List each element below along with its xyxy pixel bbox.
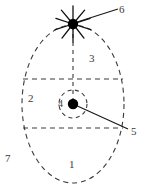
callout-label-3: 3 — [89, 53, 95, 64]
callout-label-1: 1 — [69, 159, 75, 170]
center-node-dot — [68, 99, 78, 109]
callout-label-2: 2 — [28, 93, 34, 104]
callout-label-5: 5 — [131, 126, 137, 137]
radius-line — [73, 104, 128, 129]
callout-label-6: 6 — [119, 4, 125, 15]
callout-label-7: 7 — [5, 153, 11, 164]
figure-container: 1 2 3 4 5 6 7 — [0, 0, 146, 195]
callout-label-4: 4 — [58, 99, 63, 109]
top-node-dot — [68, 19, 78, 29]
